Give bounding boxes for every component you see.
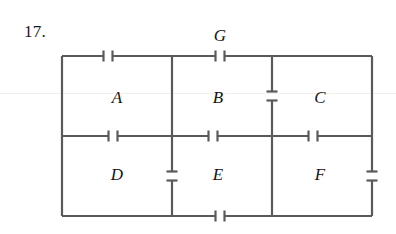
cap-top-g [216, 51, 225, 62]
cap-div-bc-upper [267, 92, 278, 101]
cap-mid-2 [209, 131, 218, 142]
capacitor-network-figure [0, 0, 396, 234]
region-label-d: D [111, 165, 123, 185]
cap-div-ab-lower [167, 172, 178, 181]
cap-bottom [216, 211, 225, 222]
page-canvas: 17. ABCDEFG [0, 0, 396, 234]
cap-right-lower [367, 172, 378, 181]
cap-top-left [104, 51, 113, 62]
region-label-g: G [214, 26, 226, 46]
cap-mid-3 [309, 131, 318, 142]
cap-mid-1 [109, 131, 118, 142]
region-label-b: B [213, 88, 223, 108]
region-label-e: E [213, 165, 223, 185]
region-label-f: F [315, 165, 325, 185]
region-label-a: A [112, 88, 122, 108]
region-label-c: C [314, 88, 325, 108]
